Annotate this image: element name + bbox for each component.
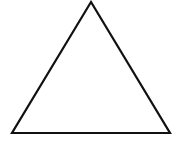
background — [0, 0, 176, 161]
diagram-canvas — [0, 0, 176, 161]
